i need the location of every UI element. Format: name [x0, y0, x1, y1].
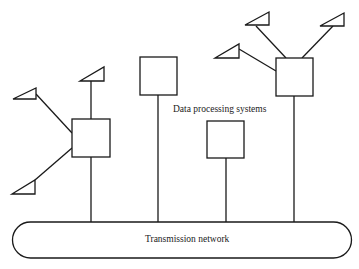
system-3 [207, 121, 244, 222]
system-4 [215, 12, 344, 222]
network-label: Transmission network [145, 234, 229, 244]
network-diagram [0, 0, 359, 269]
terminal-icon [12, 180, 35, 194]
terminal-icon [320, 13, 344, 26]
terminal-icon [13, 88, 36, 99]
system-1 [12, 67, 110, 222]
systems-label: Data processing systems [173, 104, 266, 114]
terminal-icon [80, 67, 104, 81]
terminal-icon [215, 44, 239, 58]
system-2 [140, 57, 177, 222]
terminal-icon [245, 12, 269, 25]
